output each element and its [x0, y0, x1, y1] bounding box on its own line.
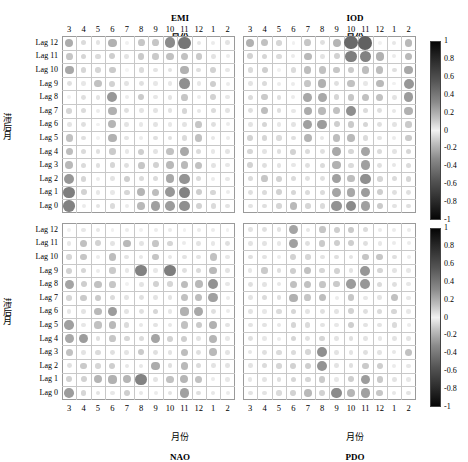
row-label-emi-lag-12: Lag 12: [14, 38, 58, 47]
heatmap-cell: [67, 228, 71, 232]
row-label-nao-lag-8: Lag 8: [14, 279, 58, 288]
heatmap-cell: [378, 241, 382, 245]
heatmap-cell: [291, 109, 295, 113]
row-label-nao-lag-2: Lag 2: [14, 361, 58, 370]
heatmap-cell: [334, 377, 338, 381]
heatmap-cell: [392, 228, 396, 232]
heatmap-cell: [110, 350, 115, 355]
heatmap-cell: [110, 241, 115, 246]
grid-line-horizontal: [243, 77, 416, 78]
heatmap-cell: [109, 148, 115, 154]
heatmap-cell: [124, 309, 129, 314]
x-tick-label-emi-10: 10: [163, 24, 177, 34]
grid-line-horizontal: [62, 345, 235, 346]
heatmap-cell: [335, 296, 339, 300]
heatmap-cell: [319, 226, 326, 233]
heatmap-cell: [291, 322, 297, 328]
heatmap-cell: [167, 241, 173, 247]
x-tick-label-emi-11: 11: [177, 24, 191, 34]
heatmap-cell: [124, 390, 130, 396]
heatmap-cell: [348, 163, 353, 168]
heatmap-cell: [180, 147, 189, 156]
grid-line-horizontal: [62, 305, 235, 306]
heatmap-cell: [319, 376, 325, 382]
row-label-emi-lag-3: Lag 3: [14, 160, 58, 169]
heatmap-cell: [292, 41, 296, 45]
heatmap-cell: [277, 95, 282, 100]
grid-line-horizontal: [243, 318, 416, 319]
grid-line-horizontal: [62, 104, 235, 105]
heatmap-cell: [348, 121, 354, 127]
heatmap-cell: [376, 80, 384, 88]
heatmap-cell: [363, 323, 368, 328]
heatmap-cell: [361, 160, 370, 169]
colorbar-tick-bottom-9: -0.8: [444, 384, 457, 393]
colorbar-tick-top-9: -0.8: [444, 197, 457, 206]
heatmap-cell: [319, 240, 325, 246]
heatmap-cell: [290, 202, 298, 210]
grid-line-horizontal: [243, 277, 416, 278]
colorbar-tick-bottom-10: -1: [444, 402, 451, 411]
grid-line-horizontal: [243, 373, 416, 374]
heatmap-cell: [261, 267, 267, 273]
heatmap-cell: [248, 122, 253, 127]
colorbar-tick-bottom-4: 0.2: [444, 295, 454, 304]
heatmap-cell: [179, 201, 190, 212]
heatmap-cell: [94, 308, 102, 316]
x-tick-label-iod-3: 3: [243, 24, 257, 34]
heatmap-cell: [248, 241, 253, 246]
heatmap-cell: [182, 268, 187, 273]
heatmap-cell: [125, 41, 129, 45]
heatmap-cell: [392, 204, 397, 209]
panel-title-pdo-month: 月份: [346, 432, 364, 442]
heatmap-cell: [377, 268, 383, 274]
heatmap-cell: [248, 295, 253, 300]
colorbar-tick-bottom-2: 0.6: [444, 259, 454, 268]
y-axis-label-top: 滞后月: [2, 113, 11, 140]
heatmap-cell: [225, 377, 229, 381]
grid-line-horizontal: [62, 77, 235, 78]
heatmap-cell: [153, 122, 158, 127]
heatmap-cell: [248, 227, 253, 232]
heatmap-cell: [137, 202, 145, 210]
row-label-emi-lag-6: Lag 6: [14, 119, 58, 128]
heatmap-cell: [211, 309, 216, 314]
heatmap-cell: [363, 296, 367, 300]
grid-line-horizontal: [243, 291, 416, 292]
heatmap-cell: [334, 323, 338, 327]
heatmap-cell: [195, 280, 203, 288]
heatmap-cell: [248, 95, 253, 100]
heatmap-cell: [81, 281, 87, 287]
heatmap-cell: [291, 350, 296, 355]
heatmap-cell: [80, 240, 87, 247]
heatmap-cell: [289, 294, 297, 302]
x-tick-label-nao-8: 8: [134, 403, 148, 413]
heatmap-cell: [406, 336, 411, 341]
grid-line-horizontal: [243, 145, 416, 146]
heatmap-cell: [378, 336, 382, 340]
heatmap-cell: [66, 268, 72, 274]
heatmap-cell: [151, 362, 160, 371]
heatmap-cell: [154, 228, 158, 232]
grid-line-horizontal: [243, 345, 416, 346]
heatmap-cell: [392, 364, 396, 368]
heatmap-cell: [363, 241, 368, 246]
heatmap-cell: [277, 163, 282, 168]
heatmap-cell: [65, 161, 73, 169]
x-tick-label-nao-5: 5: [91, 403, 105, 413]
grid-line-horizontal: [62, 118, 235, 119]
x-tick-label-iod-8: 8: [315, 24, 329, 34]
heatmap-cell: [96, 163, 101, 168]
grid-line-horizontal: [62, 131, 235, 132]
heatmap-cell: [347, 134, 355, 142]
grid-line-horizontal: [243, 359, 416, 360]
heatmap-cell: [277, 241, 281, 245]
grid-line-horizontal: [62, 172, 235, 173]
heatmap-cell: [153, 350, 158, 355]
heatmap-cell: [81, 390, 87, 396]
x-tick-label-iod-9: 9: [329, 24, 343, 34]
heatmap-cell: [377, 176, 383, 182]
heatmap-cell: [318, 79, 326, 87]
heatmap-cell: [362, 94, 369, 101]
